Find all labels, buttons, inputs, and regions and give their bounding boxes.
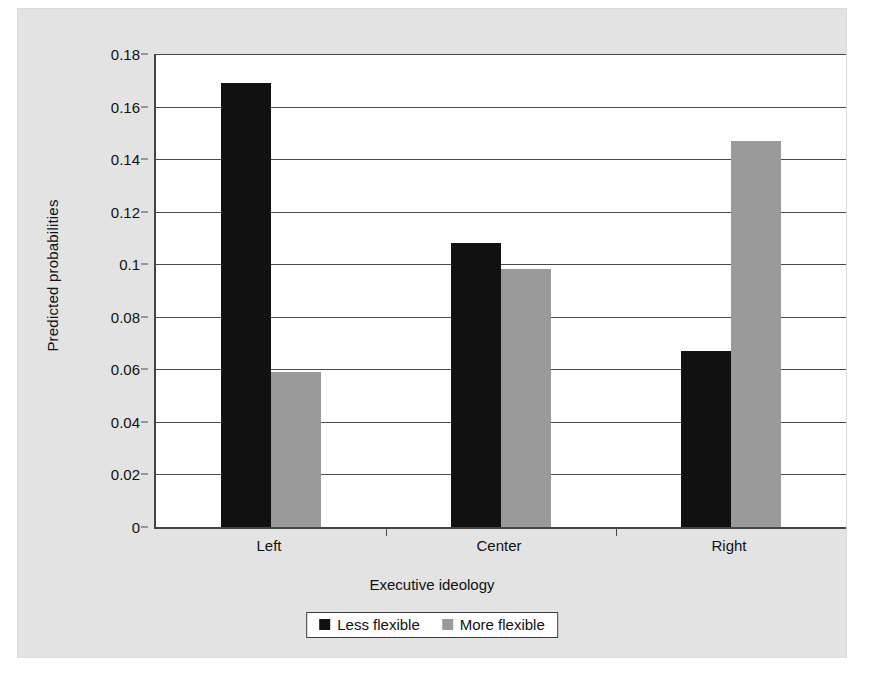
- y-tick-label: 0.02: [111, 466, 140, 483]
- y-tick-mark: [141, 106, 148, 107]
- y-axis-tick-labels: 00.020.040.060.080.10.120.140.160.18: [78, 54, 148, 527]
- y-tick-mark: [141, 369, 148, 370]
- gridline: [156, 54, 846, 55]
- legend-swatch-icon: [442, 619, 453, 630]
- chart-figure: Predicted probabilities 00.020.040.060.0…: [0, 0, 870, 673]
- figure-panel: Predicted probabilities 00.020.040.060.0…: [18, 9, 846, 657]
- y-tick-mark: [141, 421, 148, 422]
- y-tick-label: 0.08: [111, 308, 140, 325]
- y-axis-title: Predicted probabilities: [44, 156, 61, 396]
- y-tick-mark: [141, 159, 148, 160]
- x-category-label-center: Center: [476, 537, 521, 554]
- y-tick-mark: [141, 211, 148, 212]
- legend-swatch-icon: [319, 619, 330, 630]
- chart-legend: Less flexibleMore flexible: [306, 612, 558, 638]
- y-tick-label: 0.14: [111, 151, 140, 168]
- bar-right-less: [681, 351, 731, 527]
- legend-label: Less flexible: [337, 616, 420, 633]
- bar-right-more: [731, 141, 781, 527]
- x-tick-mark: [616, 527, 617, 536]
- bar-center-less: [451, 243, 501, 527]
- bar-left-more: [271, 372, 321, 527]
- y-tick-mark: [141, 316, 148, 317]
- x-category-label-right: Right: [711, 537, 746, 554]
- x-tick-mark: [386, 527, 387, 536]
- y-tick-label: 0.18: [111, 46, 140, 63]
- y-tick-label: 0.12: [111, 203, 140, 220]
- y-tick-label: 0.04: [111, 413, 140, 430]
- legend-item: Less flexible: [319, 616, 420, 633]
- plot-area: [154, 54, 846, 529]
- legend-item: More flexible: [442, 616, 545, 633]
- y-tick-mark: [141, 474, 148, 475]
- y-tick-mark: [141, 54, 148, 55]
- y-tick-label: 0.1: [119, 256, 140, 273]
- y-tick-label: 0: [132, 519, 140, 536]
- y-tick-label: 0.06: [111, 361, 140, 378]
- y-tick-label: 0.16: [111, 98, 140, 115]
- x-axis-title: Executive ideology: [18, 576, 846, 593]
- legend-label: More flexible: [460, 616, 545, 633]
- y-tick-mark: [141, 264, 148, 265]
- bar-center-more: [501, 269, 551, 527]
- x-category-label-left: Left: [256, 537, 281, 554]
- bar-left-less: [221, 83, 271, 527]
- y-tick-mark: [141, 527, 148, 528]
